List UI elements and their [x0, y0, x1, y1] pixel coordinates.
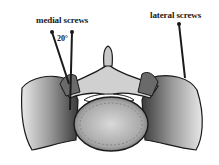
vertebral-body	[74, 97, 148, 151]
lateral-screw	[179, 24, 185, 78]
medial-screws-label: medial screws	[36, 15, 88, 25]
medial-screw-angled-head	[50, 30, 54, 34]
angle-label: 20°	[57, 34, 68, 43]
spinous-process	[104, 46, 113, 66]
lateral-screws-label: lateral screws	[150, 10, 201, 20]
medial-screw-straight-head	[70, 30, 74, 34]
vertebra-diagram	[0, 0, 219, 165]
lateral-screw-head	[177, 22, 181, 26]
